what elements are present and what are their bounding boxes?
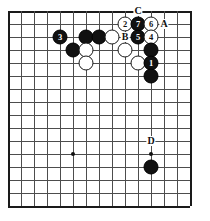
star-point bbox=[71, 152, 75, 156]
stone-black bbox=[144, 69, 159, 84]
grid-line-vertical bbox=[47, 11, 48, 206]
stone-black-move-3: 3 bbox=[53, 30, 68, 45]
stone-white bbox=[105, 30, 120, 45]
star-point bbox=[149, 152, 153, 156]
stone-white bbox=[79, 56, 94, 71]
point-label-b: B bbox=[121, 32, 130, 42]
grid-line-vertical bbox=[34, 11, 35, 206]
grid-line-vertical bbox=[21, 11, 22, 206]
point-label-d: D bbox=[146, 136, 155, 146]
grid-line-horizontal bbox=[8, 206, 190, 208]
point-label-c: C bbox=[133, 6, 142, 16]
point-label-a: A bbox=[159, 19, 168, 29]
go-board-diagram: 2763541 CABD bbox=[0, 0, 210, 221]
grid-line-vertical bbox=[8, 11, 10, 206]
grid-line-vertical bbox=[73, 11, 74, 206]
grid-line-vertical bbox=[177, 11, 178, 206]
stone-black bbox=[144, 160, 159, 175]
grid-line-vertical bbox=[190, 11, 192, 206]
stone-white bbox=[118, 43, 133, 58]
grid-line-vertical bbox=[164, 11, 165, 206]
